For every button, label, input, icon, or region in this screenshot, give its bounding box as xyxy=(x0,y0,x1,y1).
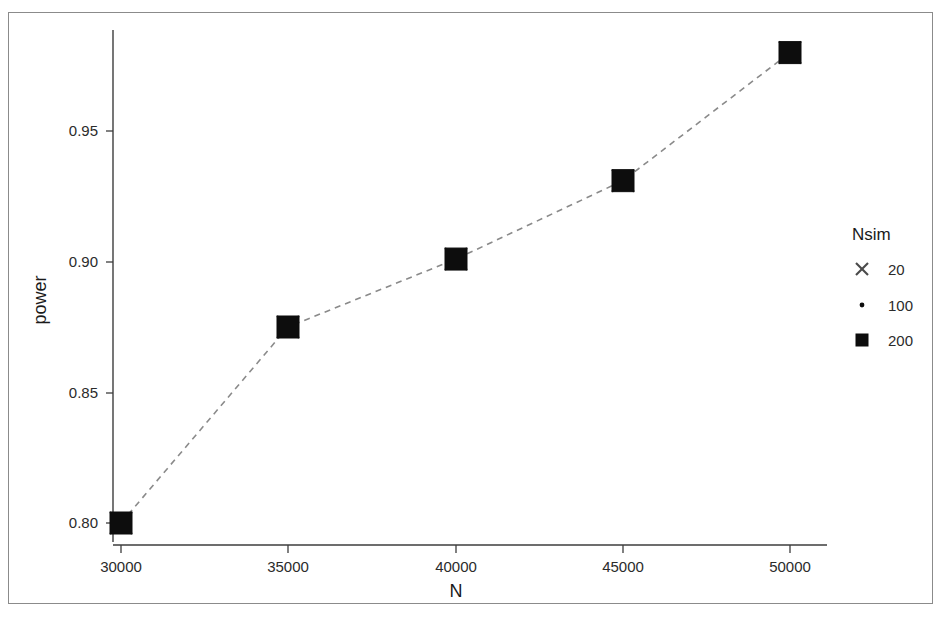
y-tick-label-2: 0.85 xyxy=(69,384,98,401)
series-connector-line xyxy=(121,53,790,523)
legend-item-20[interactable]: 20 xyxy=(856,261,905,278)
square-marker xyxy=(445,248,467,270)
legend-item-100[interactable]: 100 xyxy=(860,297,913,314)
data-point-200-30000[interactable] xyxy=(110,512,132,534)
square-marker xyxy=(277,316,299,338)
data-point-200-35000[interactable] xyxy=(277,316,299,338)
x-tick-label-3: 45000 xyxy=(602,558,644,575)
x-tick-label-4: 50000 xyxy=(769,558,811,575)
legend-label-100: 100 xyxy=(888,297,913,314)
y-axis: 0.95 0.90 0.85 0.80 power xyxy=(30,30,113,542)
square-marker xyxy=(110,512,132,534)
data-point-200-50000[interactable] xyxy=(779,42,801,64)
y-tick-label-1: 0.90 xyxy=(69,253,98,270)
x-tick-label-1: 35000 xyxy=(267,558,309,575)
square-marker-icon xyxy=(856,334,868,346)
legend-label-20: 20 xyxy=(888,261,905,278)
legend-item-200[interactable]: 200 xyxy=(856,332,913,349)
dot-marker-icon xyxy=(860,303,865,308)
data-series-layer xyxy=(110,42,801,534)
chart-page: 0.95 0.90 0.85 0.80 power 30000 35000 xyxy=(0,0,945,622)
square-marker xyxy=(779,42,801,64)
chart-svg: 0.95 0.90 0.85 0.80 power 30000 35000 xyxy=(0,0,945,622)
legend-label-200: 200 xyxy=(888,332,913,349)
data-point-200-40000[interactable] xyxy=(445,248,467,270)
x-tick-label-2: 40000 xyxy=(435,558,477,575)
legend-title: Nsim xyxy=(852,225,891,244)
x-axis-title: N xyxy=(450,581,463,601)
y-tick-label-0: 0.95 xyxy=(69,122,98,139)
x-tick-label-0: 30000 xyxy=(100,558,142,575)
square-marker xyxy=(612,170,634,192)
y-axis-title: power xyxy=(30,275,50,324)
data-point-200-45000[interactable] xyxy=(612,170,634,192)
power-vs-n-chart: 0.95 0.90 0.85 0.80 power 30000 35000 xyxy=(0,0,945,622)
legend: Nsim 20 100 200 xyxy=(852,225,913,349)
cross-marker-icon xyxy=(856,263,868,275)
y-tick-label-3: 0.80 xyxy=(69,514,98,531)
x-axis: 30000 35000 40000 45000 50000 N xyxy=(100,545,827,601)
